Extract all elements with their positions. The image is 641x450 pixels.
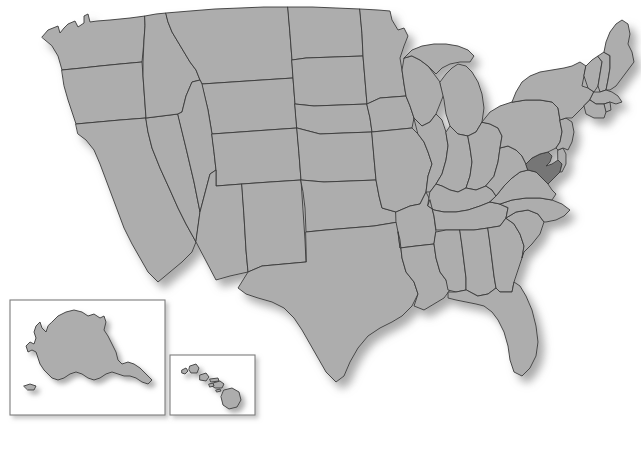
us-map-canvas [0, 0, 641, 450]
state-colorado[interactable] [212, 128, 301, 186]
hawaii-lanai[interactable] [209, 383, 214, 387]
state-new-mexico[interactable] [242, 180, 306, 272]
hawaii-kahoolawe[interactable] [216, 389, 221, 392]
state-oregon[interactable] [62, 62, 146, 124]
state-nebraska[interactable] [295, 104, 372, 134]
state-south-dakota[interactable] [292, 56, 367, 106]
hawaii-big-island[interactable] [221, 388, 241, 409]
state-wyoming[interactable] [202, 78, 297, 134]
alaska-inset [10, 300, 165, 415]
state-iowa[interactable] [367, 96, 414, 132]
state-north-dakota[interactable] [288, 7, 363, 60]
hawaii-inset [170, 355, 255, 415]
us-map-figure [0, 0, 641, 450]
state-kansas[interactable] [297, 128, 376, 182]
